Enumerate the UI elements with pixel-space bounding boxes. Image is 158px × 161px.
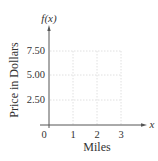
- x-axis-symbol: x: [149, 118, 155, 130]
- y-axis-symbol: f(x): [41, 12, 57, 25]
- x-tick-label: 0: [41, 129, 46, 140]
- grid: [50, 51, 121, 125]
- y-axis-arrow-icon: [47, 25, 50, 31]
- x-tick-label: 2: [94, 129, 99, 140]
- y-tick-label: 5.00: [27, 69, 45, 80]
- y-axis-label: Price in Dollars: [7, 42, 22, 117]
- x-axis-arrow-icon: [141, 123, 147, 126]
- price-vs-miles-chart: f(x) x 7.50 5.00 2.50 0 1 2 3 Price in D…: [0, 0, 158, 161]
- y-tick-label: 7.50: [27, 45, 45, 56]
- x-tick-label: 1: [70, 129, 75, 140]
- y-tick-label: 2.50: [27, 94, 45, 105]
- x-axis-label: Miles: [83, 140, 110, 155]
- chart-canvas: f(x) x 7.50 5.00 2.50 0 1 2 3: [0, 0, 158, 161]
- x-tick-label: 3: [118, 129, 123, 140]
